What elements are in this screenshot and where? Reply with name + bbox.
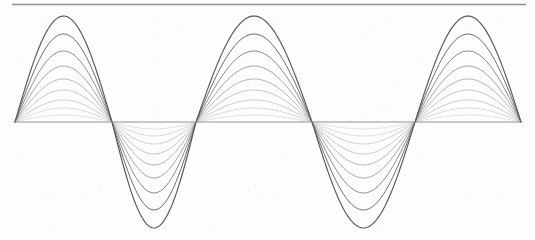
standing-wave-figure — [0, 0, 535, 240]
wave-plot-canvas — [0, 0, 535, 240]
